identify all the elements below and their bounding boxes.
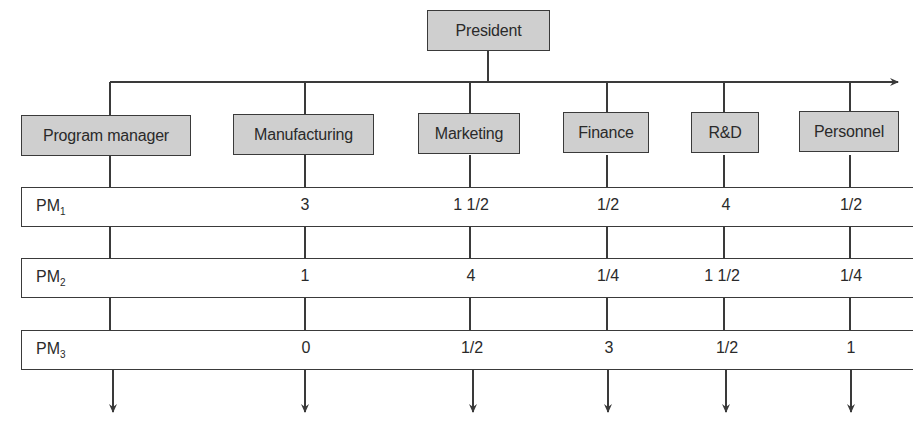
president-label: President <box>456 22 522 40</box>
department-finance: Finance <box>563 112 649 153</box>
department-label: Finance <box>578 124 634 142</box>
cell-rnd: 4 <box>722 196 731 214</box>
department-label: Marketing <box>435 125 503 143</box>
department-label: Program manager <box>43 127 169 145</box>
row-label: PM1 <box>36 197 66 217</box>
cell-marketing: 4 <box>467 267 476 285</box>
department-rnd: R&D <box>691 112 759 153</box>
row-label: PM2 <box>36 268 66 288</box>
department-program-manager: Program manager <box>21 115 191 156</box>
department-marketing: Marketing <box>418 113 520 154</box>
department-manufacturing: Manufacturing <box>233 114 374 155</box>
project-row-pm2: PM2 1 4 1/4 1 1/2 1/4 <box>21 258 913 298</box>
cell-finance: 1/2 <box>597 196 619 214</box>
cell-manufacturing: 3 <box>301 196 310 214</box>
department-label: R&D <box>708 124 741 142</box>
cell-manufacturing: 1 <box>301 267 310 285</box>
cell-rnd: 1/2 <box>716 339 738 357</box>
cell-finance: 1/4 <box>597 267 619 285</box>
cell-personnel: 1/4 <box>840 267 862 285</box>
cell-rnd: 1 1/2 <box>704 267 740 285</box>
cell-manufacturing: 0 <box>302 339 311 357</box>
president-box: President <box>427 10 550 51</box>
cell-marketing: 1/2 <box>461 339 483 357</box>
cell-personnel: 1 <box>847 339 856 357</box>
row-label: PM3 <box>36 340 66 360</box>
project-row-pm1: PM1 3 1 1/2 1/2 4 1/2 <box>21 187 913 227</box>
project-row-pm3: PM3 0 1/2 3 1/2 1 <box>21 330 913 370</box>
cell-finance: 3 <box>605 339 614 357</box>
department-label: Manufacturing <box>254 126 353 144</box>
department-personnel: Personnel <box>799 111 899 152</box>
cell-personnel: 1/2 <box>840 196 862 214</box>
department-label: Personnel <box>814 123 884 141</box>
matrix-org-chart: President Program manager Manufacturing … <box>0 0 913 429</box>
cell-marketing: 1 1/2 <box>453 196 489 214</box>
